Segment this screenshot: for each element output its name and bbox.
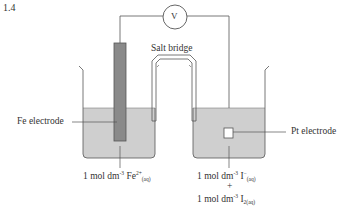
salt-bridge-label: Salt bridge — [151, 44, 192, 54]
fe-electrode-label: Fe electrode — [17, 117, 64, 127]
circuit-wire — [120, 16, 163, 43]
pt-electrode-label: Pt electrode — [291, 127, 336, 137]
question-number: 1.4 — [3, 3, 16, 13]
right-solution-label-line2: 1 mol dm-3 I2(aq) — [197, 194, 255, 206]
right-solution-plus: + — [227, 182, 232, 192]
fe-electrode — [114, 43, 126, 141]
salt-bridge-inner — [156, 59, 192, 121]
salt-bridge-outer — [152, 55, 196, 121]
left-solution-label: 1 mol dm-3 Fe2+(aq) — [83, 171, 151, 183]
pt-electrode — [224, 128, 233, 138]
electrochemical-cell-diagram — [0, 0, 343, 207]
voltmeter-label: V — [171, 12, 178, 21]
